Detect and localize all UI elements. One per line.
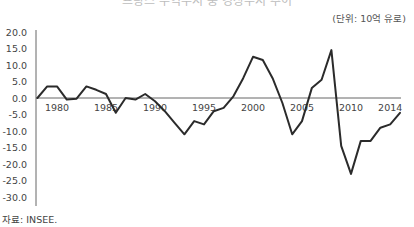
y-tick-label: -15.0 <box>2 142 27 153</box>
y-tick-label: -30.0 <box>2 192 27 203</box>
y-tick-label: 0.0 <box>12 93 27 104</box>
x-tick-label: 2014 <box>378 102 402 113</box>
y-tick-label: -20.0 <box>2 159 27 170</box>
line-chart: 20.015.010.05.00.0-5.0-10.0-15.0-20.0-25… <box>0 0 414 227</box>
x-tick-label: 1980 <box>45 102 69 113</box>
x-tick-label: 2005 <box>290 102 314 113</box>
y-tick-label: -25.0 <box>2 175 27 186</box>
x-tick-label: 2000 <box>241 102 265 113</box>
y-tick-label: -5.0 <box>8 109 27 120</box>
y-tick-label: 5.0 <box>12 76 27 87</box>
y-tick-label: -10.0 <box>2 126 27 137</box>
x-tick-label: 2010 <box>339 102 363 113</box>
x-tick-label: 1990 <box>143 102 167 113</box>
y-tick-label: 10.0 <box>6 60 27 71</box>
y-tick-label: 20.0 <box>6 27 27 38</box>
y-tick-label: 15.0 <box>6 43 27 54</box>
y-axis: 20.015.010.05.00.0-5.0-10.0-15.0-20.0-25… <box>2 27 36 207</box>
x-axis: 19801985199019952000200520102014 <box>36 98 402 113</box>
